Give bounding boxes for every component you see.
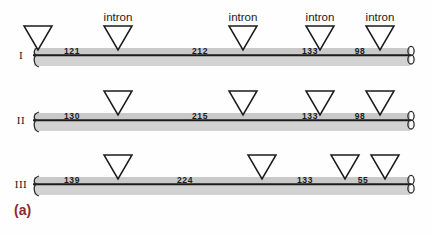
segment-length-label: 215 [192,111,208,121]
figure-caption: (a) [14,202,31,218]
gene-row-iii: 13922413355III [15,155,414,196]
gene-bar-upper-band [34,113,410,120]
intron-text-label: intron [366,11,395,23]
gene-rows-group: 12121213398intronintronintronintronI1302… [15,11,414,196]
intron-triangle[interactable] [248,155,276,179]
gene-bar-upper-band [34,177,410,184]
caption-group: (a) [14,202,31,218]
segment-length-label: 224 [177,175,193,185]
intron-triangle[interactable] [371,155,399,179]
gene-intron-figure: 12121213398intronintronintronintronI1302… [0,0,432,235]
intron-triangle[interactable] [366,91,394,115]
intron-triangle[interactable] [104,155,132,179]
intron-text-label: intron [306,11,335,23]
gene-row-label-i: I [19,49,23,61]
intron-triangle[interactable] [366,26,394,50]
gene-bar-lower-band [34,55,410,66]
intron-text-label: intron [229,11,258,23]
segment-length-label: 55 [358,175,369,185]
segment-length-label: 212 [192,46,208,56]
segment-length-label: 133 [302,46,318,56]
segment-length-label: 130 [64,111,80,121]
gene-row-label-iii: III [15,178,28,190]
segment-length-label: 98 [355,46,366,56]
segment-length-label: 133 [302,111,318,121]
gene-row-i: 12121213398intronintronintronintronI [19,11,414,67]
segment-length-label: 133 [297,175,313,185]
gene-bar-lower-band [34,184,410,195]
segment-length-label: 121 [64,46,80,56]
intron-triangle[interactable] [104,91,132,115]
intron-triangle[interactable] [24,26,52,50]
figure-canvas: 12121213398intronintronintronintronI1302… [0,0,432,235]
intron-triangle[interactable] [229,26,257,50]
intron-triangle[interactable] [104,26,132,50]
segment-length-label: 139 [64,175,80,185]
intron-triangle[interactable] [331,155,359,179]
gene-row-label-ii: II [17,114,25,126]
intron-text-label: intron [104,11,133,23]
gene-bar-upper-band [34,48,410,55]
segment-length-label: 98 [355,111,366,121]
gene-row-ii: 13021513398II [17,91,414,132]
gene-bar-lower-band [34,120,410,131]
intron-triangle[interactable] [229,91,257,115]
